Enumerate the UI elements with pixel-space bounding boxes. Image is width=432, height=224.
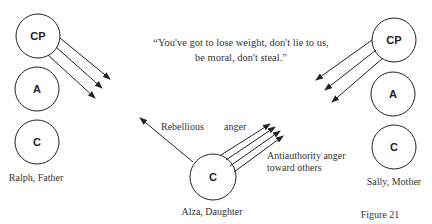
mother-c-label: C [390, 141, 398, 153]
mother-arrows [316, 40, 383, 102]
father-cp-label: CP [30, 30, 45, 42]
daughter-c-label: C [209, 171, 217, 183]
father-ego-states: CP A C Ralph, Father [9, 14, 64, 183]
quote-line-2: be moral, don't steal.” [195, 52, 287, 63]
father-name: Ralph, Father [9, 172, 64, 183]
mother-ego-states: CP A C Sally, Mother [367, 18, 422, 187]
anger-label: anger [224, 121, 247, 132]
antiauthority-label-2: toward others [267, 162, 322, 173]
mother-name: Sally, Mother [367, 176, 422, 187]
mother-a-label: A [389, 88, 397, 100]
daughter-name: Alza, Daughter [181, 206, 243, 217]
transactional-diagram: CP A C Ralph, Father “You've got to lose… [0, 0, 432, 224]
rebellious-label: Rebellious [161, 121, 204, 132]
quote-line-1: “You've got to lose weight, don't lie to… [153, 37, 328, 48]
father-c-label: C [33, 136, 41, 148]
mother-cp-label: CP [386, 34, 401, 46]
antiauthority-label-1: Antiauthority anger [267, 150, 346, 161]
father-a-label: A [33, 83, 41, 95]
figure-caption: Figure 21 [361, 209, 400, 220]
